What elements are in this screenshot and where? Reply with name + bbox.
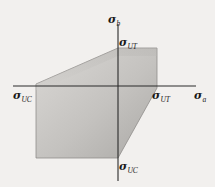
sigma-glyph: σ: [152, 89, 160, 102]
sigma-subscript: a: [202, 95, 206, 104]
sigma-subscript: UC: [21, 95, 31, 104]
sigma-subscript: UT: [160, 95, 169, 104]
label-sigma-uc-bottom: σUC: [119, 157, 137, 173]
label-sigma-a: σa: [194, 86, 206, 102]
sigma-glyph: σ: [194, 89, 202, 102]
failure-envelope-figure: σb σUT σUC σUT σa σUC: [0, 0, 215, 187]
sigma-glyph: σ: [108, 13, 116, 26]
label-sigma-ut-right: σUT: [152, 86, 169, 102]
sigma-glyph: σ: [13, 89, 21, 102]
sigma-subscript: UC: [127, 166, 137, 175]
failure-envelope-plot: [0, 0, 215, 187]
sigma-subscript: UT: [127, 42, 136, 51]
sigma-subscript: b: [116, 19, 120, 28]
sigma-glyph: σ: [119, 36, 127, 49]
label-sigma-b: σb: [108, 10, 120, 26]
sigma-glyph: σ: [119, 160, 127, 173]
label-sigma-uc-left: σUC: [13, 86, 31, 102]
label-sigma-ut-top: σUT: [119, 33, 136, 49]
